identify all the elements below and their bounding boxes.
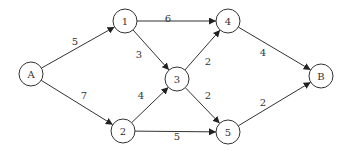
edge-weight-label: 2 <box>260 97 266 108</box>
node-2: 2 <box>111 119 135 143</box>
edge-weight-label: 7 <box>81 90 87 101</box>
node-1: 1 <box>113 9 137 33</box>
edge-weight-label: 2 <box>205 90 211 101</box>
node-5: 5 <box>216 120 240 144</box>
edge-A-1 <box>41 27 114 68</box>
node-label: 1 <box>122 16 128 27</box>
node-3: 3 <box>165 67 189 91</box>
edge-line <box>185 88 219 124</box>
edge-weight-label: 4 <box>260 47 266 58</box>
edge-weight-label: 6 <box>165 13 171 24</box>
edge-weight-label: 4 <box>138 90 144 101</box>
node-label: 4 <box>225 16 231 27</box>
node-label: 2 <box>120 126 126 137</box>
edge-weight-label: 5 <box>174 131 180 142</box>
edge-weight-label: 2 <box>205 56 211 67</box>
node-label: 5 <box>225 127 231 138</box>
network-graph: 5763452242 A12345B <box>0 0 350 156</box>
node-A: A <box>19 62 43 86</box>
edge-3-5 <box>185 88 219 124</box>
edge-line <box>238 82 310 126</box>
node-label: B <box>317 71 324 82</box>
edge-line <box>185 30 220 70</box>
nodes-layer: A12345B <box>19 9 333 144</box>
node-B: B <box>309 64 333 88</box>
edge-weight-label: 5 <box>72 36 78 47</box>
edge-line <box>238 27 310 70</box>
edge-5-B <box>238 82 310 126</box>
edge-4-B <box>238 27 310 70</box>
edge-3-4 <box>185 30 220 70</box>
node-label: 3 <box>174 74 180 85</box>
edge-line <box>41 80 113 124</box>
edge-weight-label: 3 <box>136 49 142 60</box>
node-label: A <box>26 69 35 80</box>
node-4: 4 <box>216 9 240 33</box>
edge-A-2 <box>41 80 113 124</box>
edge-line <box>41 27 114 68</box>
